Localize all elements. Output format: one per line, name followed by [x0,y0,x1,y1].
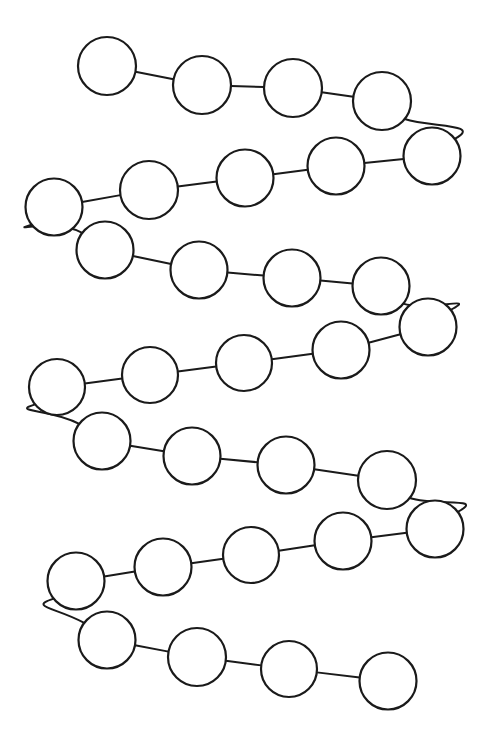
chain-node [79,612,136,669]
chain-node [264,59,322,117]
chain-node [358,451,416,509]
chain-node [168,628,226,686]
chain-node [164,428,221,485]
chain-link [231,86,264,87]
chain-link [279,545,315,551]
chain-node [171,242,228,299]
chain-link [322,92,354,97]
chain-node [217,150,274,207]
chain-node [135,539,192,596]
chain-link [226,661,261,666]
chain-node [122,347,178,403]
chain-node [48,553,105,610]
chain-link [371,533,406,538]
chain-link [220,459,257,463]
serpentine-chain-figure [0,0,491,745]
chain-node [26,179,83,236]
chain-link [135,645,169,651]
chain-node [400,299,457,356]
chain-node [29,359,85,415]
chain-link [320,281,352,284]
chain-link [82,195,120,202]
chain-node [120,161,178,219]
chain-link [314,469,358,476]
chain-node [360,653,417,710]
chain-node [216,335,272,391]
chain-link [135,72,173,80]
chain-link [85,379,122,384]
chain-node [264,250,321,307]
chain-link [364,159,403,163]
chain-node [313,322,370,379]
chain-node [407,501,464,558]
chain-link [191,559,223,563]
chain-node [308,138,365,195]
chain-node [353,258,410,315]
chain-node [353,72,411,130]
chain-node [258,437,315,494]
chain-link [317,672,360,677]
chain-link [178,182,217,187]
chain-link [369,334,401,342]
chain-node [315,513,372,570]
chain-node [77,222,134,279]
chain-node [261,641,317,697]
chain-link [104,572,135,577]
chain-link [272,354,313,359]
figure-canvas [0,0,491,745]
chain-nodes-group [26,37,464,710]
chain-node [74,413,131,470]
chain-link [178,367,216,372]
chain-link [130,446,164,452]
chain-node [404,128,461,185]
chain-link [227,272,263,275]
chain-node [78,37,136,95]
chain-node [223,527,279,583]
chain-node [173,56,231,114]
chain-link [273,170,307,175]
chain-link [133,256,171,264]
